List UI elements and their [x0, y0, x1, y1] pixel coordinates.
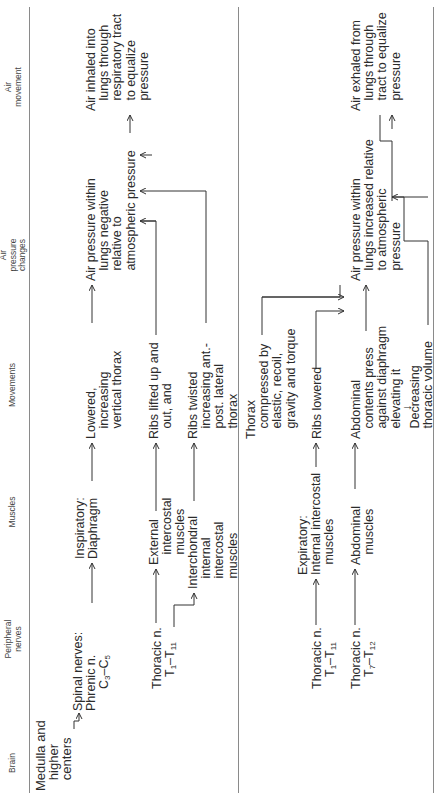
- connector-arrows: [0, 0, 436, 801]
- respiration-control-diagram: Brain Peripheral nerves Muscles Movement…: [0, 0, 436, 801]
